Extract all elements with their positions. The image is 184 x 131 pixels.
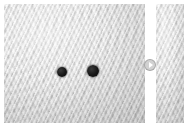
secondary-image-panel[interactable] bbox=[156, 4, 184, 123]
particle-marker bbox=[57, 67, 67, 77]
surface-texture-overlay bbox=[4, 4, 145, 123]
play-triangle-right-icon bbox=[149, 62, 153, 68]
next-image-button[interactable] bbox=[144, 59, 156, 71]
particle-marker bbox=[87, 65, 99, 77]
primary-image-panel[interactable] bbox=[4, 4, 145, 123]
image-comparison-viewer bbox=[0, 0, 184, 131]
surface-texture-overlay bbox=[156, 4, 184, 123]
